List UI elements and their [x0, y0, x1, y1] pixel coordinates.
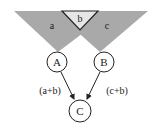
edge-b-to-c	[87, 72, 100, 99]
region-c-label: c	[105, 20, 110, 31]
node-b-label: B	[100, 56, 107, 68]
node-a-label: A	[53, 56, 61, 68]
node-c-label: C	[76, 105, 83, 117]
edge-a-to-c	[61, 72, 74, 99]
edge-b-to-c-label: (c+b)	[106, 85, 128, 97]
edge-a-to-c-label: (a+b)	[39, 85, 61, 97]
region-b-label: b	[78, 13, 83, 24]
region-a-label: a	[50, 20, 55, 31]
venn-flow-diagram: a b c A B C (a+b) (c+b)	[0, 0, 155, 135]
